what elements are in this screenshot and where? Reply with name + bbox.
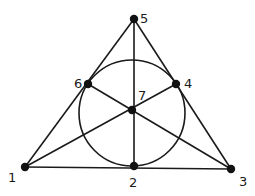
line-3-7-6 (88, 84, 231, 169)
point-7 (128, 106, 136, 114)
point-label-7: 7 (138, 88, 146, 103)
point-3 (227, 165, 235, 173)
point-1 (21, 163, 29, 171)
point-6 (84, 80, 92, 88)
point-label-2: 2 (129, 175, 137, 190)
point-label-6: 6 (74, 76, 82, 91)
line-5-6-1 (25, 19, 134, 167)
point-label-4: 4 (184, 76, 192, 91)
point-label-3: 3 (239, 174, 247, 189)
fano-plane-diagram: 1 2 3 4 5 6 7 (0, 0, 255, 196)
line-1-2-3 (25, 167, 231, 169)
line-1-7-4 (25, 84, 176, 167)
point-4 (172, 80, 180, 88)
point-5 (130, 15, 138, 23)
point-label-5: 5 (140, 11, 148, 26)
point-2 (130, 162, 138, 170)
line-3-4-5 (134, 19, 231, 169)
point-label-1: 1 (8, 170, 16, 185)
